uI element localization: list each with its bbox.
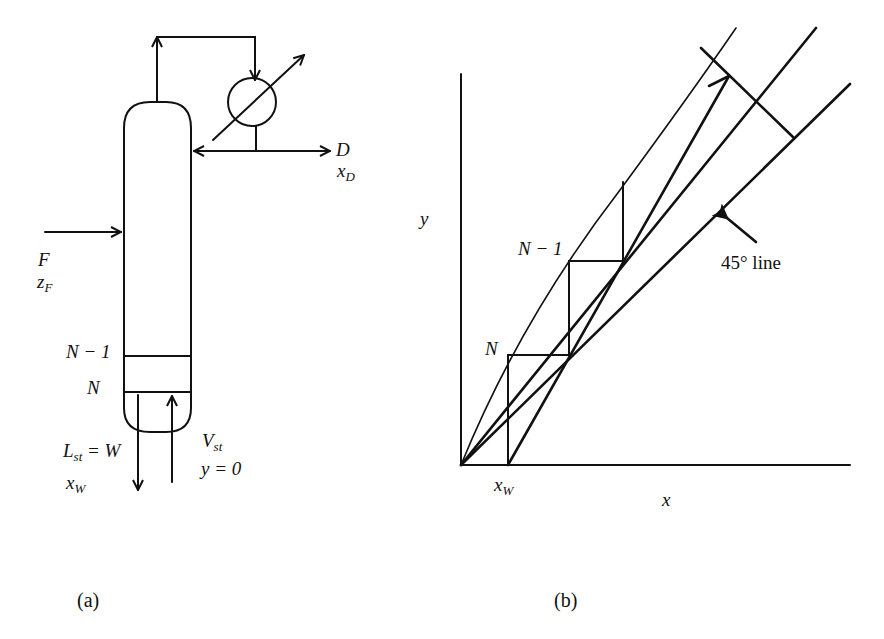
annotation-45-line: 45° line bbox=[721, 252, 781, 274]
stripping-operating-line bbox=[508, 76, 729, 465]
bottoms-liquid-label: Lst = W bbox=[63, 440, 120, 465]
plot-label-n-minus-1: N − 1 bbox=[518, 238, 563, 260]
y-axis-label: y bbox=[420, 208, 428, 230]
q-line bbox=[701, 48, 794, 138]
bottoms-comp-sub: W bbox=[74, 481, 85, 496]
column-vessel bbox=[124, 102, 191, 432]
stripping-vapor-label: Vst bbox=[202, 430, 222, 455]
caption-a: (a) bbox=[77, 589, 99, 612]
distillate-comp-sub: D bbox=[345, 169, 354, 184]
stripping-vapor-var: V bbox=[202, 430, 214, 451]
stage-n-minus-1-label: N − 1 bbox=[66, 341, 111, 363]
annotation-arrow bbox=[727, 218, 756, 242]
distillate-composition-label: xD bbox=[337, 160, 355, 185]
x-w-tick-label: xW bbox=[494, 474, 513, 499]
feed-comp-sub: F bbox=[44, 280, 52, 295]
condenser-coolant-arrow bbox=[213, 55, 304, 140]
equilibrium-curve bbox=[461, 28, 736, 465]
feed-composition-label: zF bbox=[37, 271, 52, 296]
column-diagram bbox=[45, 37, 330, 490]
distillate-label: D bbox=[336, 139, 350, 161]
stage-n-minus-1-step bbox=[569, 182, 623, 355]
bottoms-liquid-eq: = W bbox=[82, 440, 120, 461]
plot-label-n: N bbox=[485, 338, 498, 360]
stripping-vapor-condition: y = 0 bbox=[201, 458, 241, 480]
bottoms-composition-label: xW bbox=[66, 472, 85, 497]
stripping-vapor-sub: st bbox=[214, 439, 223, 454]
rectifying-operating-line bbox=[461, 28, 816, 465]
bottoms-liquid-sub: st bbox=[74, 449, 83, 464]
figure-canvas bbox=[0, 0, 884, 639]
caption-b: (b) bbox=[554, 589, 577, 612]
bottoms-liquid-var: L bbox=[63, 440, 74, 461]
stage-n-label: N bbox=[87, 377, 100, 399]
x-w-sub: W bbox=[502, 483, 513, 498]
feed-label: F bbox=[38, 249, 50, 271]
overhead-pipe bbox=[157, 37, 255, 80]
x-axis-label: x bbox=[662, 489, 670, 511]
